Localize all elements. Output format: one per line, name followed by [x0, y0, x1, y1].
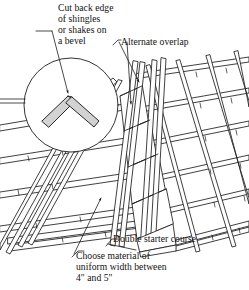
callout-choose-material: Choose material of uniform width between…: [76, 250, 167, 283]
callout-alternate-overlap: Alternate overlap: [121, 36, 189, 47]
callout-line: Alternate overlap: [121, 36, 189, 47]
callout-line: Double starter course: [113, 233, 196, 244]
circle-left-stub: [0, 99, 25, 103]
callout-line: uniform width between: [76, 261, 167, 272]
callout-line: Cut back edge: [58, 2, 114, 13]
callout-double-starter-course: Double starter course: [113, 233, 196, 244]
roof-shingle-diagram: Cut back edge of shingles or shakes on a…: [0, 0, 249, 290]
callout-line: Choose material of: [76, 250, 167, 261]
diagram-linework: [0, 31, 249, 257]
callout-line: of shingles: [58, 13, 114, 24]
callout-line: a bevel: [58, 35, 114, 46]
callout-line: or shakes on: [58, 24, 114, 35]
callout-line: 4" and 5": [76, 272, 167, 283]
callout-cut-back-edge: Cut back edge of shingles or shakes on a…: [58, 2, 114, 46]
